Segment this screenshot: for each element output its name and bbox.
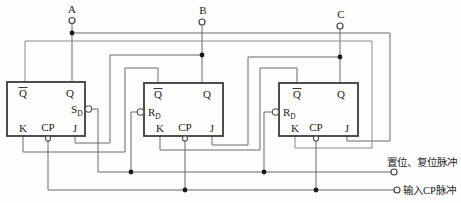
ring-counter-diagram: Q Q SD K CP J Q Q RD K CP J Q Q RD K CP …	[0, 0, 461, 203]
wire-rd3-to-bus	[264, 112, 272, 172]
ff2-qbar-label: Q	[154, 88, 162, 100]
junction-dot	[183, 188, 188, 193]
ff2-j-label: J	[210, 122, 215, 134]
flipflop-3: Q Q RD K CP J	[272, 83, 358, 141]
terminal-a-node-icon	[69, 18, 75, 24]
ff1-qbar-label: Q	[19, 87, 27, 99]
circuit-diagram-svg: Q Q SD K CP J Q Q RD K CP J Q Q RD K CP …	[0, 0, 461, 203]
ff2-cp-label: CP	[178, 121, 191, 133]
set-reset-terminal-node-icon	[391, 169, 397, 175]
ff1-k-label: K	[19, 122, 27, 134]
terminal-c-label: C	[337, 8, 344, 20]
ff2-k-label: K	[156, 122, 164, 134]
cp-input-terminal-node-icon	[394, 187, 400, 193]
ff1-sd-bubble-icon	[85, 106, 91, 112]
terminal-c-node-icon	[337, 23, 343, 29]
ff3-cp-bubble-icon	[313, 136, 318, 141]
ff1-j-label: J	[73, 122, 78, 134]
junction-dot	[338, 55, 343, 60]
wire-rd2-to-bus	[131, 112, 137, 172]
ff1-cp-bubble-icon	[45, 136, 50, 141]
ff1-q-label: Q	[66, 87, 74, 99]
terminal-b-node-icon	[199, 19, 205, 25]
ff3-qbar-label: Q	[293, 88, 301, 100]
ff3-j-label: J	[345, 122, 350, 134]
ff3-rd-bubble-icon	[272, 109, 278, 115]
ff3-cp-label: CP	[309, 121, 322, 133]
junction-dot	[129, 170, 134, 175]
ff1-cp-label: CP	[41, 121, 54, 133]
ff3-q-label: Q	[337, 88, 345, 100]
cp-input-pulse-label: 输入CP脉冲	[403, 184, 456, 196]
junction-dot	[70, 31, 75, 36]
terminal-a-label: A	[68, 3, 76, 15]
ff2-cp-bubble-icon	[182, 136, 187, 141]
pulse-inputs: 置位、复位脉冲 输入CP脉冲	[387, 156, 457, 196]
set-reset-pulse-label: 置位、复位脉冲	[387, 156, 457, 168]
junction-dot	[200, 53, 205, 58]
wire-sd1-to-bus	[92, 109, 98, 172]
junction-dot	[314, 188, 319, 193]
junction-dot	[262, 170, 267, 175]
output-terminals: A B C	[68, 3, 345, 29]
ff3-k-label: K	[291, 122, 299, 134]
ff2-rd-bubble-icon	[137, 109, 143, 115]
flipflop-2: Q Q RD K CP J	[137, 83, 223, 141]
terminal-b-label: B	[199, 4, 206, 16]
flipflop-1: Q Q SD K CP J	[7, 82, 92, 141]
ff2-q-label: Q	[203, 88, 211, 100]
